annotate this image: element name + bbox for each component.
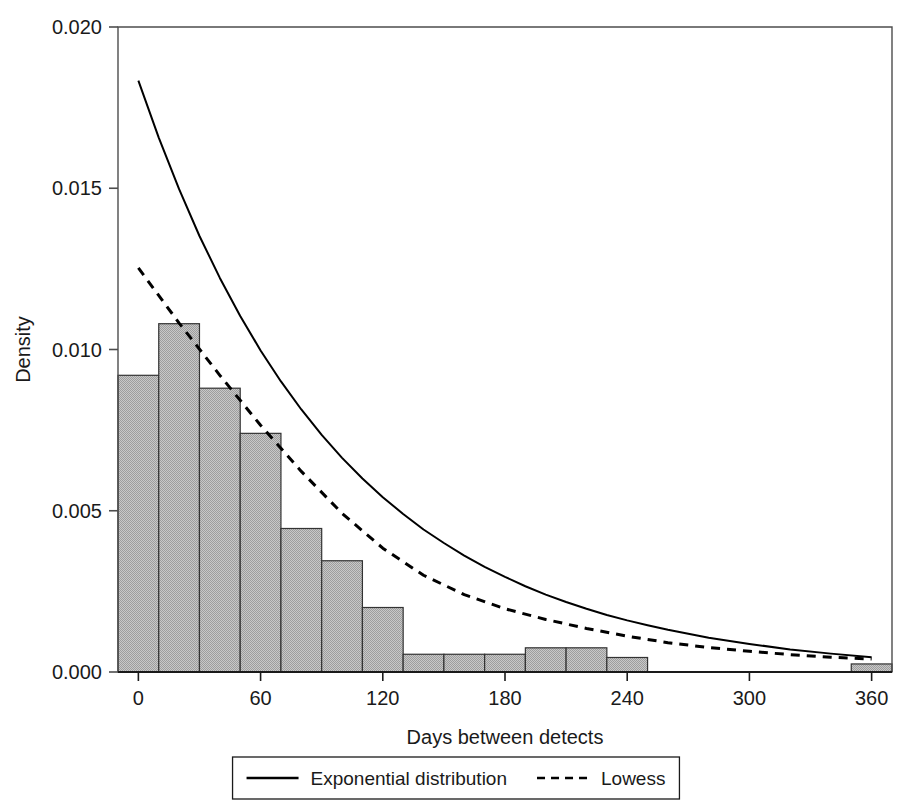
y-tick-label: 0.000 — [52, 661, 102, 683]
x-tick-label: 240 — [611, 687, 644, 709]
y-tick-label: 0.010 — [52, 339, 102, 361]
x-tick-label: 0 — [133, 687, 144, 709]
chart-legend: Exponential distributionLowess — [233, 757, 680, 799]
y-tick-label: 0.015 — [52, 177, 102, 199]
histogram-bar — [444, 654, 485, 672]
y-axis-title: Density — [12, 316, 34, 383]
y-tick-label: 0.020 — [52, 16, 102, 38]
histogram-bar — [525, 648, 566, 672]
histogram-bar — [607, 657, 648, 672]
legend-label: Exponential distribution — [311, 768, 507, 789]
x-tick-label: 120 — [366, 687, 399, 709]
x-tick-label: 60 — [249, 687, 271, 709]
y-tick-label: 0.005 — [52, 500, 102, 522]
chart-container: 060120180240300360 0.0000.0050.0100.0150… — [0, 0, 912, 805]
histogram-bar — [566, 648, 607, 672]
x-axis-title: Days between detects — [407, 726, 604, 748]
density-histogram-chart: 060120180240300360 0.0000.0050.0100.0150… — [0, 0, 912, 805]
histogram-bar — [851, 664, 892, 672]
histogram-bar — [159, 324, 200, 672]
histogram-bar — [322, 561, 363, 672]
histogram-bar — [199, 388, 240, 672]
histogram-bar — [485, 654, 526, 672]
histogram-bar — [362, 608, 403, 673]
x-tick-label: 180 — [488, 687, 521, 709]
histogram-bar — [240, 433, 281, 672]
histogram-bar — [403, 654, 444, 672]
x-tick-label: 360 — [855, 687, 888, 709]
histogram-bar — [118, 375, 159, 672]
legend-label: Lowess — [601, 768, 665, 789]
histogram-bar — [281, 528, 322, 672]
x-tick-label: 300 — [733, 687, 766, 709]
